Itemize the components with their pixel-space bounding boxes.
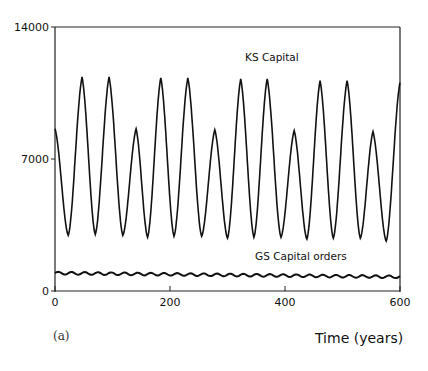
x-tick-label: 400 <box>275 296 296 309</box>
ks-capital-label: KS Capital <box>245 51 299 63</box>
x-tick-label: 200 <box>160 296 181 309</box>
ks-capital-line <box>55 77 400 241</box>
x-tick-label: 600 <box>390 296 411 309</box>
axis-tick-labels: 02004006000700014000 <box>14 21 411 309</box>
panel-label: (a) <box>53 329 70 343</box>
x-axis-title: Time (years) <box>314 330 403 346</box>
y-tick-label: 7000 <box>21 153 49 166</box>
chart: 02004006000700014000 KS Capital GS Capit… <box>0 0 428 371</box>
axis-ticks <box>51 27 400 291</box>
gs-capital-orders-label: GS Capital orders <box>255 250 347 262</box>
y-tick-label: 0 <box>42 285 49 298</box>
gs-capital-orders-line <box>55 272 400 278</box>
y-tick-label: 14000 <box>14 21 49 34</box>
plot-frame <box>55 27 400 292</box>
x-tick-label: 0 <box>52 296 59 309</box>
